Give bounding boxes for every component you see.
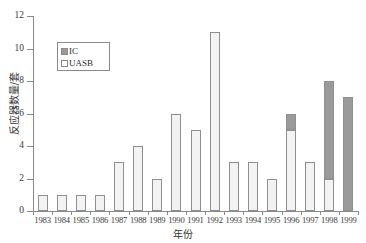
bar-segment-uasb[interactable] (324, 179, 334, 212)
bar-group[interactable] (305, 16, 315, 211)
bar-group[interactable] (210, 16, 220, 211)
bar-segment-uasb[interactable] (95, 195, 105, 211)
bar-group[interactable] (152, 16, 162, 211)
bar-segment-uasb[interactable] (229, 162, 239, 211)
x-axis-tick-label: 1993 (224, 216, 243, 225)
x-axis-tick-label: 1983 (33, 216, 52, 225)
x-axis-tick-label: 1984 (52, 216, 71, 225)
x-axis-tick-label: 1999 (339, 216, 358, 225)
bar-segment-uasb[interactable] (191, 130, 201, 211)
bar-segment-uasb[interactable] (38, 195, 48, 211)
x-axis-tick (358, 211, 359, 215)
bar-group[interactable] (286, 16, 296, 211)
bar-segment-uasb[interactable] (267, 179, 277, 212)
bar-segment-uasb[interactable] (114, 162, 124, 211)
bar-group[interactable] (191, 16, 201, 211)
bar-group[interactable] (324, 16, 334, 211)
x-axis-tick-label: 1992 (205, 216, 224, 225)
x-axis-tick-label: 1989 (148, 216, 167, 225)
bar-segment-ic[interactable] (286, 114, 296, 130)
bar-segment-uasb[interactable] (57, 195, 67, 211)
legend-swatch-ic-icon (61, 48, 68, 55)
bar-segment-uasb[interactable] (286, 130, 296, 211)
legend-label-ic: IC (69, 47, 78, 56)
bar-group[interactable] (171, 16, 181, 211)
bar-segment-uasb[interactable] (76, 195, 86, 211)
legend-label-uasb: UASB (69, 59, 93, 68)
bar-group[interactable] (267, 16, 277, 211)
y-axis-tick-label: 2 (0, 174, 24, 184)
x-axis-tick-label: 1998 (320, 216, 339, 225)
bar-group[interactable] (343, 16, 353, 211)
x-axis-line (33, 211, 359, 212)
x-axis-tick-label: 1986 (90, 216, 109, 225)
bar-group[interactable] (229, 16, 239, 211)
y-axis-tick-label: 12 (0, 11, 24, 21)
bar-segment-ic[interactable] (343, 97, 353, 211)
bar-segment-uasb[interactable] (133, 146, 143, 211)
bar-chart-figure: 024681012 198319841985198619871988198919… (0, 0, 366, 243)
bar-segment-uasb[interactable] (210, 32, 220, 211)
x-axis-tick-label: 1995 (262, 216, 281, 225)
legend-item-uasb: UASB (61, 57, 109, 69)
bar-group[interactable] (38, 16, 48, 211)
chart-legend: IC UASB (57, 42, 110, 71)
x-axis-tick-label: 1988 (129, 216, 148, 225)
x-axis-tick-label: 1987 (109, 216, 128, 225)
x-axis-tick-label: 1985 (71, 216, 90, 225)
bar-group[interactable] (133, 16, 143, 211)
legend-item-ic: IC (61, 45, 109, 57)
bar-segment-uasb[interactable] (305, 162, 315, 211)
bar-segment-uasb[interactable] (248, 162, 258, 211)
x-axis-tick-label: 1996 (282, 216, 301, 225)
bar-segment-uasb[interactable] (171, 114, 181, 212)
x-axis-title: 年份 (0, 226, 366, 241)
y-axis-title: 反应器数量/套 (6, 49, 21, 159)
bar-segment-uasb[interactable] (152, 179, 162, 212)
x-axis-tick-label: 1997 (301, 216, 320, 225)
y-axis-tick-label: 0 (0, 206, 24, 216)
bar-group[interactable] (114, 16, 124, 211)
x-axis-tick-label: 1991 (186, 216, 205, 225)
bar-group[interactable] (248, 16, 258, 211)
x-axis-tick-label: 1990 (167, 216, 186, 225)
legend-swatch-uasb-icon (61, 60, 68, 67)
x-axis-tick-label: 1994 (243, 216, 262, 225)
bar-segment-ic[interactable] (324, 81, 334, 179)
